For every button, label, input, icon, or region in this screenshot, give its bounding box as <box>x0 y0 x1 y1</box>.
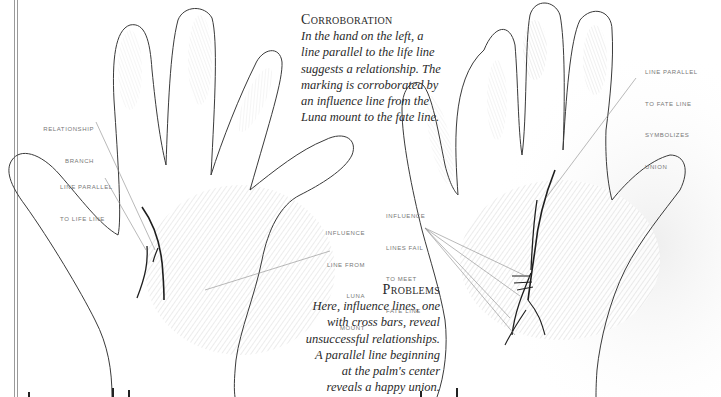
caption-line: at the palm's center <box>280 363 440 379</box>
caption-line: reveals a happy union. <box>280 379 440 395</box>
label-line: TO LIFE LINE <box>60 214 113 225</box>
corroboration-caption: Corroboration In the hand on the left, a… <box>301 12 476 126</box>
label-line: LINE PARALLEL <box>645 67 698 78</box>
label-influence-fail: INFLUENCE LINES FAIL TO MEET FATE LINE <box>386 190 425 337</box>
label-line: LINE FROM <box>300 260 365 271</box>
label-line: TO FATE LINE <box>645 99 698 110</box>
left-finger-print <box>231 64 279 136</box>
label-line: RELATIONSHIP <box>36 124 94 135</box>
label-line: TO MEET <box>386 274 425 285</box>
caption-line: marking is corroborated by <box>301 77 476 93</box>
corroboration-title: Corroboration <box>301 12 476 28</box>
label-line: UNION <box>645 162 698 173</box>
label-line: INFLUENCE <box>300 228 365 239</box>
label-line: LUNA <box>300 291 365 302</box>
caption-line: Luna mount to the fate line. <box>301 109 476 125</box>
label-line: FATE LINE <box>386 306 425 317</box>
caption-line: line parallel to the life line <box>301 44 476 60</box>
label-influence-luna: INFLUENCE LINE FROM LUNA MOUNT <box>300 207 365 354</box>
label-line-parallel-life: LINE PARALLEL TO LIFE LINE <box>60 161 113 245</box>
label-parallel-fate: LINE PARALLEL TO FATE LINE SYMBOLIZES UN… <box>645 46 698 193</box>
right-finger-print <box>583 25 607 95</box>
right-finger-print <box>487 60 507 140</box>
left-finger-print <box>118 30 142 110</box>
caption-line: In the hand on the left, a <box>301 28 476 44</box>
corroboration-body: In the hand on the left, a line parallel… <box>301 28 476 126</box>
label-line: LINES FAIL <box>386 243 425 254</box>
book-page: Corroboration In the hand on the left, a… <box>0 0 721 397</box>
caption-line: an influence line from the <box>301 93 476 109</box>
caption-line: suggests a relationship. The <box>301 61 476 77</box>
label-line: SYMBOLIZES <box>645 130 698 141</box>
label-line: INFLUENCE <box>386 211 425 222</box>
label-line: LINE PARALLEL <box>60 182 113 193</box>
label-line: MOUNT <box>300 323 365 334</box>
left-parallel-line <box>137 246 147 298</box>
left-finger-print <box>188 15 212 105</box>
